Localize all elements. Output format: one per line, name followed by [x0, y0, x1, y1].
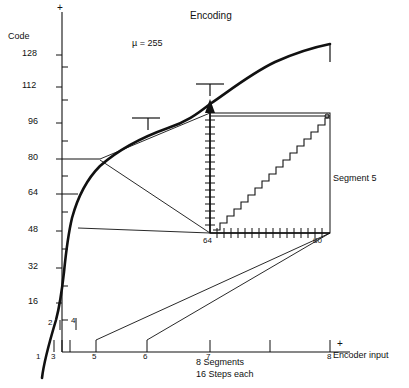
x-tick-1: 1 — [36, 352, 40, 361]
x-axis-plus-mark: + — [337, 338, 343, 349]
y-tick-marks — [56, 55, 62, 303]
x-tick-marks — [54, 340, 330, 352]
footer-segments: 8 Segments — [196, 357, 244, 367]
y-tick-96: 96 — [28, 116, 38, 126]
mu-law-curve — [42, 44, 330, 378]
y-tick-32: 32 — [28, 261, 38, 271]
inset-frame — [210, 113, 330, 233]
x-tick-4: 4 — [71, 316, 75, 325]
x-tick-2: 2 — [48, 318, 52, 327]
mu-annotation: µ = 255 — [132, 38, 162, 48]
y-tick-16: 16 — [28, 296, 38, 306]
chart-figure: Encoding Code µ = 255 128 112 96 80 64 4… — [0, 0, 409, 388]
y-tick-80: 80 — [28, 152, 38, 162]
inset-staircase — [213, 118, 330, 230]
y-tick-64: 64 — [28, 187, 38, 197]
x-axis-label: Encoder input — [333, 350, 389, 360]
inset-title: Segment 5 — [333, 173, 377, 183]
y-tick-128: 128 — [22, 48, 37, 58]
footer-steps: 16 Steps each — [196, 369, 254, 379]
x-tick-3: 3 — [51, 352, 55, 361]
y-tick-112: 112 — [22, 80, 36, 90]
x-tick-6: 6 — [143, 352, 147, 361]
inset-x-tick-80: 80 — [313, 236, 322, 245]
inset-x-tick-64: 64 — [203, 236, 212, 245]
curve-segment-markers — [132, 44, 330, 130]
chart-title: Encoding — [190, 10, 232, 21]
y-axis-label: Code — [8, 31, 30, 41]
chart-canvas — [0, 0, 409, 388]
y-axis-plus-mark: + — [57, 2, 63, 13]
expansion-guides — [78, 113, 330, 340]
x-tick-5: 5 — [92, 352, 96, 361]
y-tick-48: 48 — [28, 224, 38, 234]
x-tick-8: 8 — [327, 352, 331, 361]
